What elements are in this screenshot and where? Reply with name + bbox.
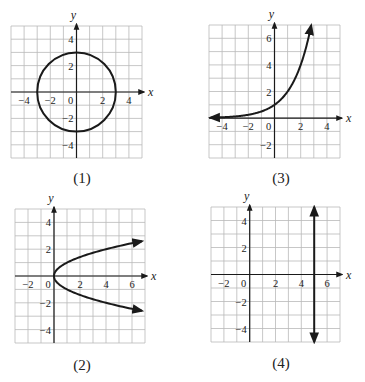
x-tick-label: 0 bbox=[266, 121, 271, 132]
y-tick-label: −2 bbox=[40, 298, 51, 309]
y-tick-label: −2 bbox=[62, 113, 73, 124]
x-tick-label: 4 bbox=[324, 121, 330, 132]
graph-1: xy−4−202442−2−4 bbox=[11, 8, 154, 158]
graph-3: xy−4−2024642−2 bbox=[209, 7, 352, 158]
caption-graph-3: (3) bbox=[272, 170, 290, 187]
y-tick-label: −4 bbox=[236, 324, 248, 335]
x-tick-label: −2 bbox=[45, 95, 56, 106]
y-tick-label: −4 bbox=[40, 325, 52, 336]
x-tick-label: 6 bbox=[324, 278, 329, 289]
x-tick-label: 4 bbox=[126, 95, 132, 106]
y-axis-label: y bbox=[268, 7, 275, 21]
x-tick-label: 0 bbox=[45, 279, 50, 290]
y-tick-label: 4 bbox=[266, 60, 272, 71]
y-tick-label: 2 bbox=[46, 244, 51, 255]
x-tick-label: 4 bbox=[299, 278, 305, 289]
y-axis-label: y bbox=[70, 8, 77, 22]
x-tick-label: 2 bbox=[273, 278, 278, 289]
x-tick-label: −2 bbox=[22, 279, 33, 290]
y-tick-label: 2 bbox=[266, 87, 271, 98]
x-axis-label: x bbox=[345, 111, 352, 125]
x-axis-label: x bbox=[345, 268, 352, 282]
graph-2: xy−2024642−2−4 bbox=[15, 191, 157, 343]
x-tick-label: 2 bbox=[100, 95, 105, 106]
x-tick-label: −2 bbox=[243, 121, 254, 132]
y-tick-label: 4 bbox=[241, 216, 247, 227]
y-axis-label: y bbox=[243, 189, 250, 203]
y-tick-label: 4 bbox=[68, 34, 74, 45]
x-tick-label: 0 bbox=[68, 95, 73, 106]
y-tick-label: −2 bbox=[260, 140, 271, 151]
caption-graph-4: (4) bbox=[272, 355, 290, 372]
x-tick-label: 4 bbox=[103, 279, 109, 290]
y-tick-label: 6 bbox=[266, 33, 271, 44]
x-axis-label: x bbox=[147, 85, 154, 99]
x-tick-label: −4 bbox=[19, 95, 31, 106]
x-tick-label: 2 bbox=[298, 121, 303, 132]
graph-4: xy−2024642−2−4 bbox=[211, 189, 352, 342]
x-tick-label: 0 bbox=[241, 278, 246, 289]
caption-graph-1: (1) bbox=[73, 170, 91, 187]
exponential-curve bbox=[210, 25, 311, 117]
y-tick-label: −4 bbox=[62, 140, 74, 151]
y-tick-label: 4 bbox=[46, 217, 52, 228]
y-tick-label: 2 bbox=[241, 243, 246, 254]
x-tick-label: −2 bbox=[218, 278, 229, 289]
y-tick-label: 2 bbox=[68, 61, 73, 72]
x-tick-label: 2 bbox=[77, 279, 82, 290]
y-axis-label: y bbox=[47, 191, 54, 205]
caption-graph-2: (2) bbox=[73, 357, 91, 374]
x-tick-label: −4 bbox=[217, 121, 229, 132]
x-axis-label: x bbox=[150, 269, 157, 283]
figure: xy−4−202442−2−4 xy−4−2024642−2 xy−202464… bbox=[0, 0, 365, 382]
x-tick-label: 6 bbox=[129, 279, 134, 290]
y-tick-label: −2 bbox=[236, 297, 247, 308]
